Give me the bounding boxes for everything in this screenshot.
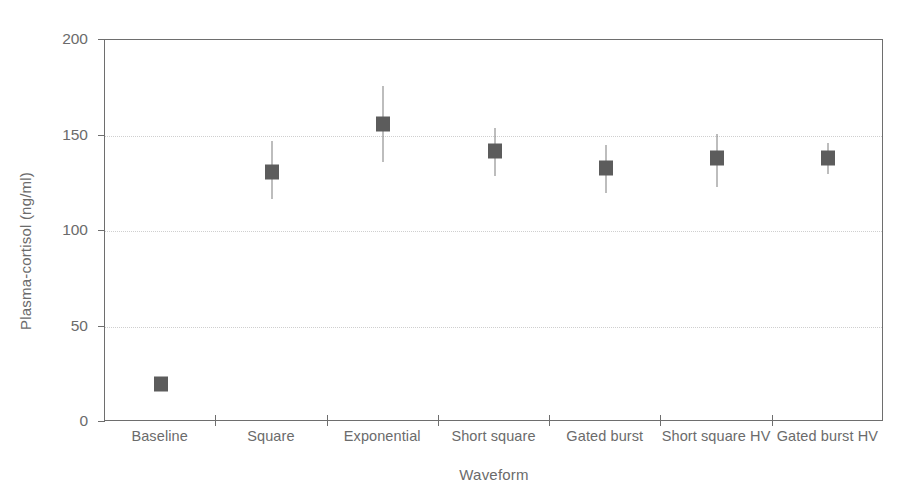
y-axis-tick-label: 100 [32,221,88,239]
x-axis-title: Waveform [104,466,884,483]
data-point-marker [376,117,390,132]
x-axis-tick-label: Gated burst HV [777,428,878,444]
x-axis-tick-label: Short square [451,428,535,444]
x-axis-tick [549,415,550,426]
y-axis-tick [98,421,105,422]
x-axis-tick-label: Square [247,428,294,444]
data-point-marker [488,143,502,158]
x-axis-tick [660,415,661,426]
data-point-marker [710,151,724,166]
data-point-marker [821,151,835,166]
y-axis-tick-label: 0 [32,412,88,430]
x-axis-tick-label: Short square HV [662,428,771,444]
y-axis-tick-label: 150 [32,126,88,144]
x-axis-tick-label: Baseline [131,428,187,444]
x-axis-tick [772,415,773,426]
gridline [105,327,882,328]
y-axis-tick-label: 50 [32,317,88,335]
x-axis-tick [215,415,216,426]
data-point-marker [599,160,613,175]
data-point-marker [154,376,168,391]
plot-area [104,39,883,421]
x-axis-tick [438,415,439,426]
chart-figure: Plasma-cortisol (ng/ml) 050100150200 Bas… [0,0,915,502]
data-point-marker [265,164,279,179]
x-axis-tick-label: Gated burst [566,428,643,444]
x-axis-tick-label: Exponential [344,428,421,444]
y-axis-tick-label: 200 [32,30,88,48]
x-axis-tick [327,415,328,426]
gridline [105,231,882,232]
